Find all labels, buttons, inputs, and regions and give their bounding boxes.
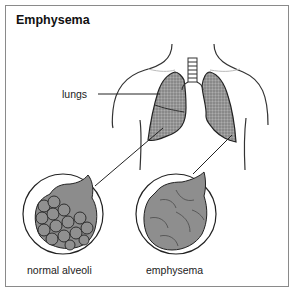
lungs-label: lungs xyxy=(62,88,87,100)
lung-left xyxy=(202,72,236,142)
normal-alveoli-illustration xyxy=(23,174,103,254)
emphysema-diagram xyxy=(0,0,299,291)
emphysema-illustration xyxy=(136,172,216,254)
normal-alveoli-label: normal alveoli xyxy=(27,264,92,276)
emphysema-label: emphysema xyxy=(146,264,203,276)
lung-right xyxy=(148,72,186,141)
trachea xyxy=(188,58,197,82)
